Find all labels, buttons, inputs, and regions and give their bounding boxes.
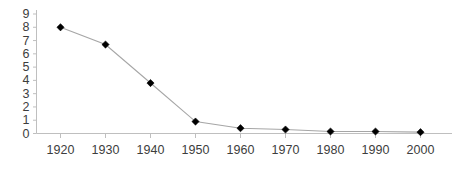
y-axis-tick-label: 0 <box>23 127 30 140</box>
y-axis-tick-label: 3 <box>23 87 30 100</box>
x-axis-tick-label: 2000 <box>407 144 435 157</box>
x-axis-tick-label: 1930 <box>92 144 120 157</box>
chart-container: 0123456789 19201930194019501960197019801… <box>0 0 463 171</box>
x-axis-tick-label: 1990 <box>362 144 390 157</box>
y-axis-tick-label: 2 <box>23 101 30 114</box>
y-axis-tick-label: 4 <box>23 74 30 87</box>
y-axis-tick-label: 1 <box>23 114 30 127</box>
y-axis-tick-label: 8 <box>23 21 30 34</box>
x-axis-tick-label: 1960 <box>227 144 255 157</box>
y-axis-tick-label: 9 <box>23 8 30 21</box>
x-axis-tick-label: 1950 <box>182 144 210 157</box>
y-axis-tick-label: 5 <box>23 61 30 74</box>
x-axis-tick-label: 1980 <box>317 144 345 157</box>
x-axis-tick-label: 1940 <box>137 144 165 157</box>
y-axis-tick-label: 7 <box>23 34 30 47</box>
x-axis-tick-label: 1970 <box>272 144 300 157</box>
y-axis-tick-label: 6 <box>23 48 30 61</box>
x-axis-tick-label: 1920 <box>47 144 75 157</box>
